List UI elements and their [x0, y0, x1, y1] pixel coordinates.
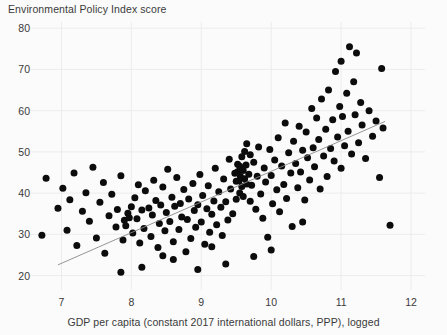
plot-svg: [30, 22, 425, 290]
scatter-point: [311, 163, 318, 170]
scatter-point: [318, 96, 325, 103]
scatter-point: [273, 186, 280, 193]
scatter-point: [133, 215, 140, 222]
scatter-point: [233, 196, 240, 203]
scatter-point: [147, 233, 154, 240]
x-axis-title: GDP per capita (constant 2017 internatio…: [0, 316, 447, 328]
scatter-point: [322, 126, 329, 133]
scatter-point: [203, 205, 210, 212]
scatter-point: [369, 133, 376, 140]
scatter-point: [257, 190, 264, 197]
scatter-point: [206, 229, 213, 236]
scatter-point: [266, 146, 273, 153]
scatter-point: [275, 134, 282, 141]
scatter-point: [250, 253, 257, 260]
scatter-point: [332, 68, 339, 75]
scatter-point: [182, 248, 189, 255]
scatter-point: [187, 235, 194, 242]
scatter-point: [222, 198, 229, 205]
scatter-point: [173, 174, 180, 181]
scatter-point: [212, 165, 219, 172]
plot-area: [30, 22, 425, 290]
scatter-point: [138, 207, 145, 214]
scatter-point: [247, 198, 254, 205]
scatter-point: [112, 223, 119, 230]
scatter-point: [325, 87, 332, 94]
scatter-point: [376, 174, 383, 181]
scatter-point: [213, 221, 220, 228]
scatter-point: [220, 176, 227, 183]
scatter-point: [38, 232, 45, 239]
scatter-point: [250, 159, 257, 166]
scatter-point: [320, 153, 327, 160]
scatter-point: [66, 196, 73, 203]
y-axis-tick-label: 30: [4, 229, 30, 239]
scatter-point: [122, 222, 129, 229]
scatter-point: [210, 197, 217, 204]
scatter-point: [154, 244, 161, 251]
scatter-point: [306, 176, 313, 183]
x-axis-tick-label: 8: [116, 296, 146, 308]
scatter-point: [296, 123, 303, 130]
scatter-point: [334, 134, 341, 141]
scatter-point: [336, 103, 343, 110]
scatter-point: [180, 186, 187, 193]
scatter-point: [243, 140, 250, 147]
scatter-point: [343, 90, 350, 97]
scatter-point: [71, 169, 78, 176]
scatter-point: [108, 191, 115, 198]
x-axis-tick-label: 9: [186, 296, 216, 308]
scatter-point: [222, 261, 229, 268]
scatter-point: [157, 202, 164, 209]
scatter-point: [150, 177, 157, 184]
scatter-point: [164, 166, 171, 173]
scatter-point: [224, 216, 231, 223]
scatter-point: [329, 116, 336, 123]
scatter-point: [301, 197, 308, 204]
scatter-point: [142, 187, 149, 194]
scatter-point: [341, 142, 348, 149]
scatter-point: [229, 210, 236, 217]
scatter-point: [255, 143, 262, 150]
scatter-point: [159, 252, 166, 259]
scatter-point: [240, 193, 247, 200]
scatter-point: [378, 65, 385, 72]
scatter-point: [285, 149, 292, 156]
y-axis-tick-label: 20: [4, 271, 30, 281]
scatter-point: [161, 227, 168, 234]
scatter-point: [163, 209, 170, 216]
scatter-point: [262, 178, 269, 185]
scatter-point: [261, 164, 268, 171]
scatter-point: [184, 216, 191, 223]
scatter-point: [294, 184, 301, 191]
scatter-point: [352, 111, 359, 118]
scatter-point: [280, 181, 287, 188]
x-axis-tick-label: 12: [396, 296, 426, 308]
y-axis-tick-labels: 20304050607080: [0, 0, 30, 335]
y-axis-title: Environmental Policy Index score: [8, 3, 166, 15]
scatter-point: [199, 192, 206, 199]
scatter-point: [308, 105, 315, 112]
scatter-point: [59, 185, 66, 192]
scatter-point: [310, 144, 317, 151]
scatter-point: [353, 49, 360, 56]
scatter-point: [168, 194, 175, 201]
scatter-point: [303, 129, 310, 136]
scatter-point: [268, 247, 275, 254]
scatter-point: [170, 238, 177, 245]
scatter-point: [348, 150, 355, 157]
scatter-point: [106, 212, 113, 219]
scatter-point: [114, 206, 121, 213]
scatter-point: [166, 218, 173, 225]
scatter-point: [297, 169, 304, 176]
scatter-point: [357, 99, 364, 106]
scatter-point: [205, 182, 212, 189]
scatter-point: [43, 175, 50, 182]
scatter-point: [331, 157, 338, 164]
scatter-point: [194, 266, 201, 273]
scatter-point: [324, 173, 331, 180]
scatter-point: [339, 113, 346, 120]
scatter-point: [355, 139, 362, 146]
scatter-point: [226, 156, 233, 163]
x-axis-tick-label: 11: [326, 296, 356, 308]
